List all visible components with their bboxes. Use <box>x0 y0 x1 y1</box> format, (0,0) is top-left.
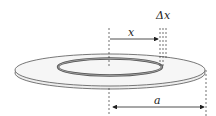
a-label: a <box>154 94 161 107</box>
delta-x-label: Δx <box>155 9 171 22</box>
x-label: x <box>128 26 135 39</box>
annular-disk-diagram: x Δx a <box>0 0 216 116</box>
